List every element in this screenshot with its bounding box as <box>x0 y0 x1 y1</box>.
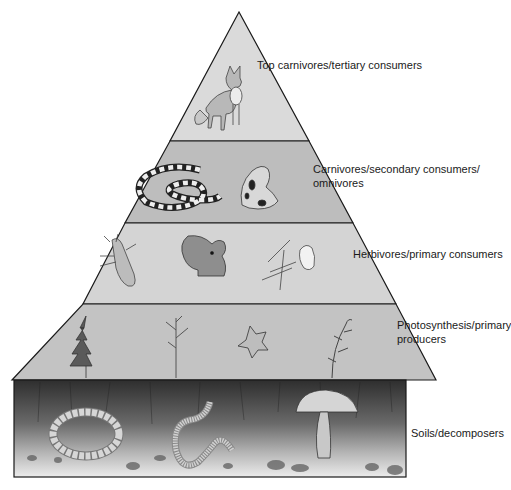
tier-decomposers <box>14 380 406 477</box>
tier-primary-consumers <box>83 223 396 304</box>
label-tertiary-consumers: Top carnivores/tertiary consumers <box>257 58 422 72</box>
label-secondary-consumers: Carnivores/secondary consumers/ omnivore… <box>313 162 480 190</box>
label-primary-consumers: Herbivores/primary consumers <box>353 247 503 261</box>
tier-tertiary-consumers <box>170 12 309 141</box>
label-producers: Photosynthesis/primary producers <box>397 318 511 346</box>
tier-producers <box>12 304 436 380</box>
label-decomposers: Soils/decomposers <box>411 426 504 440</box>
